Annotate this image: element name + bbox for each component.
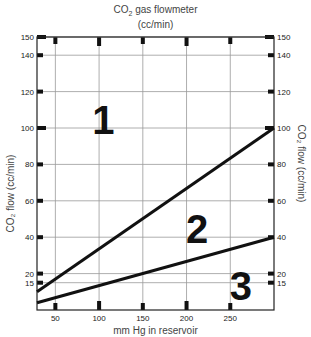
x-axis-title: mm Hg in reservoir <box>113 325 198 336</box>
y-tick-label-right: 80 <box>277 160 286 169</box>
left-tick <box>37 53 43 57</box>
y-tick-label-left: 60 <box>25 197 34 206</box>
top-tick <box>53 37 57 44</box>
y-tick-label-right: 60 <box>277 197 286 206</box>
y-tick-label-right: 150 <box>277 33 291 42</box>
top-tick <box>141 37 145 44</box>
y-axis-title-right: CO₂ flow (cc/min) <box>296 125 307 203</box>
y-tick-label-left: 120 <box>21 88 35 97</box>
y-tick-label-left: 150 <box>21 33 35 42</box>
x-tick-label: 200 <box>180 314 194 323</box>
right-tick <box>268 90 274 94</box>
y-axis-title-left: CO₂ flow (cc/min) <box>5 155 16 233</box>
x-tick-label: 100 <box>92 314 106 323</box>
y-tick-label-left: 20 <box>25 270 34 279</box>
left-tick <box>37 281 43 285</box>
y-tick-label-right: 15 <box>277 279 286 288</box>
right-tick <box>268 272 274 276</box>
left-tick <box>37 162 43 166</box>
left-tick <box>37 235 43 239</box>
left-tick <box>37 272 43 276</box>
bottom-tick <box>97 301 101 310</box>
left-tick <box>37 90 43 94</box>
y-tick-label-right: 40 <box>277 233 286 242</box>
y-tick-label-left: 15 <box>25 279 34 288</box>
y-tick-label-left: 100 <box>21 124 35 133</box>
region-label: 1 <box>92 98 114 142</box>
region-label: 3 <box>230 264 252 308</box>
right-tick <box>268 53 274 57</box>
bottom-tick <box>141 303 145 310</box>
x-tick-label: 150 <box>136 314 150 323</box>
right-tick <box>268 162 274 166</box>
chart-plot: 5010015020025015152020404060608080100100… <box>0 0 311 337</box>
y-tick-label-right: 20 <box>277 270 286 279</box>
y-tick-label-left: 140 <box>21 51 35 60</box>
y-tick-label-right: 140 <box>277 51 291 60</box>
top-tick <box>97 37 101 46</box>
y-tick-label-left: 80 <box>25 160 34 169</box>
top-tick <box>185 37 189 46</box>
x-tick-label: 50 <box>51 314 60 323</box>
bottom-tick <box>53 303 57 310</box>
left-tick <box>37 126 46 130</box>
y-tick-label-left: 40 <box>25 233 34 242</box>
right-tick <box>268 199 274 203</box>
y-tick-label-right: 100 <box>277 124 291 133</box>
bottom-tick <box>185 301 189 310</box>
region-label: 2 <box>186 207 208 251</box>
left-tick <box>37 199 43 203</box>
x-tick-label: 250 <box>224 314 238 323</box>
right-tick <box>268 281 274 285</box>
y-tick-label-right: 120 <box>277 88 291 97</box>
top-tick <box>228 37 232 44</box>
